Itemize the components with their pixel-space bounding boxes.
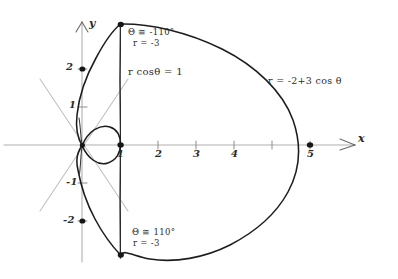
point-y-equals-2 xyxy=(79,66,85,71)
x-tick-label-4: 4 xyxy=(231,148,238,160)
point-origin-cusp xyxy=(80,143,85,148)
annotation-bottom-theta: Θ ≅ 110° xyxy=(132,228,175,238)
annotation-top-theta: Θ ≅ -110° xyxy=(128,28,174,38)
y-tick-label-minus-2: -2 xyxy=(63,214,75,226)
point-x-equals-5 xyxy=(307,142,313,148)
x-tick-label-5: 5 xyxy=(307,148,314,160)
figure-canvas xyxy=(0,0,398,279)
y-tick-label-minus-1: -1 xyxy=(66,176,78,188)
y-axis-label: y xyxy=(89,18,96,31)
marked-points xyxy=(79,22,313,258)
annotation-curve-equation: r = -2+3 cos θ xyxy=(268,76,342,87)
y-tick-label-2: 2 xyxy=(66,61,73,73)
x-tick-label-3: 3 xyxy=(193,148,200,160)
point-y-equals-minus-2 xyxy=(79,218,85,223)
annotation-bottom-r: r = -3 xyxy=(133,239,160,249)
x-tick-label-1: 1 xyxy=(117,148,124,160)
point-x-equals-1 xyxy=(117,142,123,148)
annotation-directrix-equation: r cosθ = 1 xyxy=(128,66,183,78)
y-tick-label-1: 1 xyxy=(69,99,76,111)
annotation-top-r: r = -3 xyxy=(133,39,160,49)
point-upper-line-intersection xyxy=(118,22,124,27)
x-tick-label-2: 2 xyxy=(155,148,162,160)
polar-curve-figure: y x 1 2 3 4 5 2 1 -1 -2 Θ ≅ -110° r = -3… xyxy=(0,0,398,279)
limacon-outer-loop-lower xyxy=(77,24,299,260)
x-axis-label: x xyxy=(358,133,365,146)
point-lower-line-intersection xyxy=(118,252,124,257)
